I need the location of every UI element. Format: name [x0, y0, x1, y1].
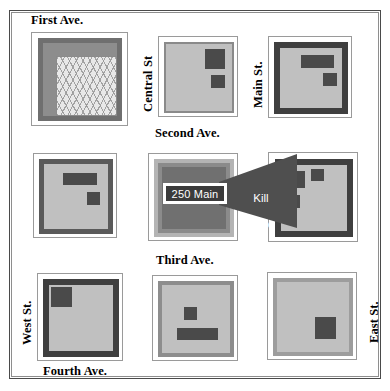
- block-r3c2[interactable]: [152, 275, 238, 361]
- block-r1c3-building-2: [323, 73, 337, 86]
- street-label-first-ave: First Ave.: [31, 13, 83, 28]
- block-r2c1[interactable]: [33, 153, 117, 238]
- block-r3c1-building-1: [51, 287, 72, 307]
- block-r2c3-building-1: [286, 171, 305, 188]
- block-map-page: 250 Main Kill Zone First Ave. Second Ave…: [0, 0, 390, 391]
- block-r1c2[interactable]: [158, 36, 238, 117]
- block-r2c1-building-1: [63, 173, 97, 185]
- block-r2c3-building-2: [311, 169, 324, 181]
- block-r1c3[interactable]: [268, 36, 352, 118]
- address-label-250-main[interactable]: 250 Main: [163, 183, 227, 204]
- street-label-central-st: Central St: [141, 56, 156, 112]
- street-label-east-st: East St.: [367, 301, 382, 343]
- block-r3c2-building-1: [184, 307, 197, 320]
- kill-zone-label-line1: Kill: [240, 192, 282, 205]
- street-label-west-st: West St.: [20, 300, 35, 345]
- block-r3c3-interior: [277, 282, 349, 352]
- street-label-second-ave: Second Ave.: [155, 126, 220, 141]
- address-label-text: 250 Main: [172, 188, 219, 200]
- block-r3c1[interactable]: [37, 273, 123, 361]
- street-label-main-st: Main St.: [251, 61, 266, 108]
- block-r1c2-building-2: [211, 75, 225, 88]
- block-r2c3-building-3: [287, 195, 300, 208]
- kill-zone-label: Kill Zone: [240, 179, 282, 244]
- block-r3c2-building-2: [177, 328, 218, 340]
- block-r1c1-hatched-lot: [56, 56, 117, 116]
- block-r3c3[interactable]: [267, 272, 357, 360]
- block-r1c3-building-1: [301, 55, 334, 68]
- street-label-third-ave: Third Ave.: [156, 253, 214, 268]
- block-r2c1-building-2: [87, 192, 100, 205]
- block-r1c1[interactable]: [31, 32, 128, 126]
- street-label-fourth-ave: Fourth Ave.: [43, 364, 107, 379]
- block-r3c3-building-1: [315, 317, 336, 339]
- block-r1c2-building-1: [205, 49, 225, 69]
- kill-zone-label-line2: Zone: [240, 218, 282, 231]
